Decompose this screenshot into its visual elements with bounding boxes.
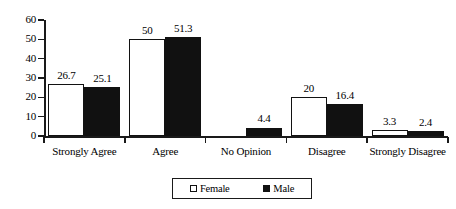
x-axis-category-label: Strongly Disagree — [352, 145, 456, 157]
y-axis-tick-label: 50 — [2, 33, 36, 44]
bar-value-label: 2.4 — [401, 117, 451, 128]
y-axis-tick-label: 30 — [2, 72, 36, 83]
x-axis-tick — [286, 137, 288, 143]
legend-label-female: Female — [200, 183, 230, 194]
bar-value-label: 4.4 — [239, 113, 289, 124]
bar-male — [84, 87, 120, 136]
bar-chart: 0102030405060 26.725.15051.34.42016.43.3… — [0, 0, 456, 209]
y-axis-tick-label: 0 — [2, 130, 36, 141]
x-axis-tick — [124, 137, 126, 143]
legend-label-male: Male — [273, 183, 294, 194]
legend-swatch-female-icon — [190, 185, 197, 192]
bar-male — [246, 128, 282, 137]
bar-female — [291, 97, 327, 136]
bar-value-label: 25.1 — [77, 73, 127, 84]
bar-female — [48, 84, 84, 136]
legend-entry-male: Male — [263, 183, 294, 194]
legend-swatch-male-icon — [263, 185, 270, 192]
x-axis-tick — [205, 137, 207, 143]
y-axis-tick-label: 60 — [2, 14, 36, 25]
y-axis-tick-label: 40 — [2, 53, 36, 64]
bar-male — [408, 131, 444, 136]
bar-value-label: 51.3 — [158, 23, 208, 34]
bar-female — [372, 130, 408, 136]
x-axis-tick — [366, 137, 368, 143]
x-axis-line — [44, 136, 448, 138]
bar-female — [129, 39, 165, 136]
legend-entry-female: Female — [190, 183, 230, 194]
chart-legend: Female Male — [172, 178, 312, 199]
y-axis-tick-label: 10 — [2, 111, 36, 122]
x-axis-tick — [447, 137, 449, 143]
x-axis-tick — [43, 137, 45, 143]
y-axis-tick-label: 20 — [2, 91, 36, 102]
bar-male — [165, 37, 201, 136]
bar-male — [327, 104, 363, 136]
bar-value-label: 16.4 — [320, 90, 370, 101]
